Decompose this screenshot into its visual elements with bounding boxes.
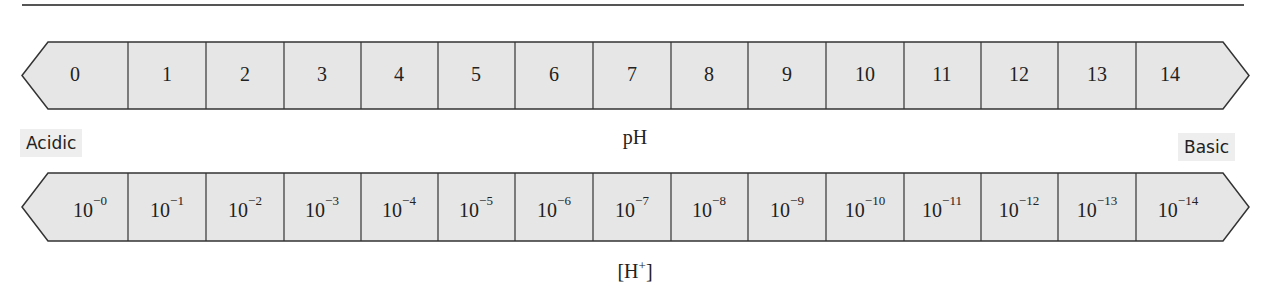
h-concentration-2: 10−2 <box>206 197 284 222</box>
h-concentration-9: 10−9 <box>748 197 826 222</box>
h-concentration-8: 10−8 <box>670 197 748 222</box>
ph-value-5: 5 <box>437 63 515 86</box>
acidic-label: Acidic <box>20 129 82 157</box>
ph-value-13: 13 <box>1058 63 1136 86</box>
h-concentration-13: 10−13 <box>1058 197 1136 222</box>
h-concentration-3: 10−3 <box>283 197 361 222</box>
ph-value-11: 11 <box>903 63 981 86</box>
ph-value-9: 9 <box>748 63 826 86</box>
ph-value-10: 10 <box>826 63 904 86</box>
h-ion-axis-label: [H+] <box>590 258 680 283</box>
ph-axis-label: pH <box>600 126 670 149</box>
h-concentration-7: 10−7 <box>593 197 671 222</box>
ph-value-7: 7 <box>593 63 671 86</box>
h-concentration-5: 10−5 <box>437 197 515 222</box>
h-concentration-0: 10−0 <box>51 197 129 222</box>
ph-value-14: 14 <box>1131 63 1209 86</box>
h-concentration-6: 10−6 <box>515 197 593 222</box>
h-concentration-11: 10−11 <box>903 197 981 222</box>
ph-value-2: 2 <box>206 63 284 86</box>
ph-value-8: 8 <box>670 63 748 86</box>
h-concentration-1: 10−1 <box>128 197 206 222</box>
h-concentration-10: 10−10 <box>826 197 904 222</box>
ph-value-0: 0 <box>36 63 114 86</box>
ph-value-12: 12 <box>980 63 1058 86</box>
h-concentration-14: 10−14 <box>1139 197 1217 222</box>
ph-value-6: 6 <box>515 63 593 86</box>
ph-value-3: 3 <box>283 63 361 86</box>
h-concentration-4: 10−4 <box>360 197 438 222</box>
basic-label: Basic <box>1178 133 1235 161</box>
ph-value-1: 1 <box>128 63 206 86</box>
ph-value-4: 4 <box>360 63 438 86</box>
h-concentration-12: 10−12 <box>980 197 1058 222</box>
